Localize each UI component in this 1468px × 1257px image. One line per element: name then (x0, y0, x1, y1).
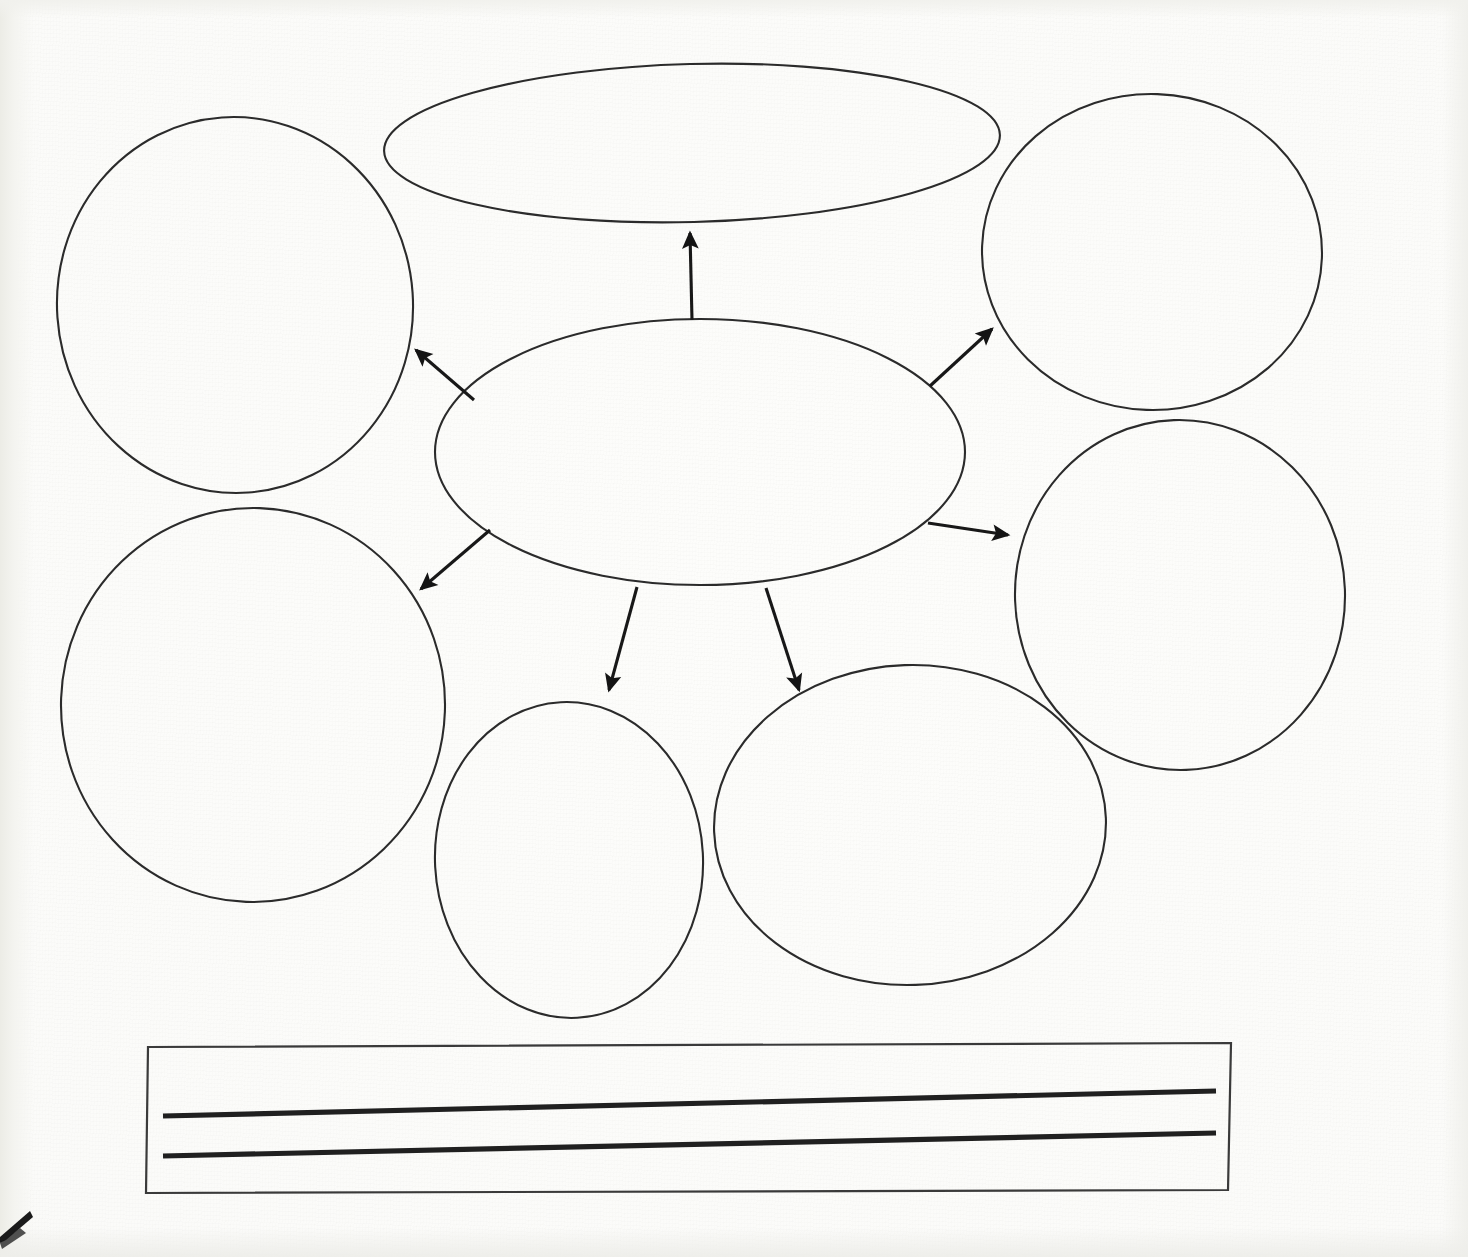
node-top-right-circle[interactable] (977, 88, 1328, 416)
bottom-right-circle-shape[interactable] (709, 658, 1112, 991)
writing-line-2[interactable] (163, 1133, 1216, 1156)
arrow-to-top-right (930, 329, 992, 386)
connector-arrows-group (416, 233, 1008, 690)
top-left-circle-shape[interactable] (44, 105, 425, 505)
center-topic-oval-shape[interactable] (435, 319, 965, 585)
arrow-to-top-left (416, 350, 474, 400)
node-center-topic-oval[interactable] (435, 319, 965, 585)
top-right-circle-shape[interactable] (977, 88, 1328, 416)
concept-map-diagram (0, 0, 1468, 1257)
node-bottom-right-circle[interactable] (709, 658, 1112, 991)
answer-box-outline[interactable] (146, 1043, 1231, 1193)
arrow-to-bottom-right (766, 588, 799, 690)
arrow-to-bottom-left (421, 530, 490, 589)
arrow-to-top-banner (690, 233, 692, 320)
node-top-banner-oval[interactable] (382, 56, 1002, 230)
worksheet-page (0, 0, 1468, 1257)
bottom-left-circle-shape[interactable] (54, 501, 452, 908)
node-bottom-left-circle[interactable] (54, 501, 452, 908)
bottom-center-oval-shape[interactable] (427, 695, 711, 1025)
arrow-to-right (928, 523, 1008, 535)
writing-line-1[interactable] (163, 1091, 1216, 1116)
branch-nodes-group (44, 56, 1351, 1025)
node-top-left-circle[interactable] (44, 105, 425, 505)
answer-box[interactable] (146, 1043, 1231, 1193)
arrow-to-bottom-center (609, 587, 637, 690)
scan-corner-artifact (0, 1211, 33, 1249)
node-bottom-center-oval[interactable] (427, 695, 711, 1025)
top-banner-oval-shape[interactable] (382, 56, 1002, 230)
